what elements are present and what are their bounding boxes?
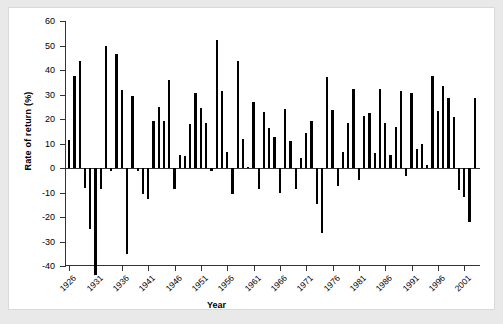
bar — [121, 90, 123, 168]
bar — [374, 153, 376, 168]
bar — [105, 46, 107, 169]
x-tick: 1956 — [227, 265, 228, 271]
x-tick: 1951 — [201, 265, 202, 271]
x-tick-label: 1966 — [259, 273, 289, 303]
x-tick-label: 1956 — [207, 273, 237, 303]
bar — [137, 168, 139, 171]
bar — [242, 139, 244, 168]
bar — [152, 121, 154, 168]
bar — [210, 168, 212, 171]
x-tick-label: 1936 — [101, 273, 131, 303]
bar — [142, 168, 144, 194]
bar — [416, 149, 418, 168]
bar — [263, 112, 265, 168]
bar — [179, 155, 181, 168]
bar — [273, 137, 275, 168]
bar — [247, 167, 249, 168]
y-tick-label: 0 — [50, 163, 55, 173]
y-tick-label: -10 — [42, 188, 55, 198]
x-tick-label: 2001 — [444, 273, 474, 303]
bar — [284, 109, 286, 168]
bar — [216, 40, 218, 168]
x-tick: 1981 — [359, 265, 360, 271]
bar — [237, 61, 239, 168]
bar — [126, 168, 128, 254]
x-tick: 1936 — [122, 265, 123, 271]
y-tick: -20 — [60, 217, 66, 218]
x-tick: 1966 — [280, 265, 281, 271]
bar — [268, 128, 270, 168]
y-tick: 10 — [60, 144, 66, 145]
bar — [405, 168, 407, 176]
y-tick: 40 — [60, 70, 66, 71]
bar — [426, 165, 428, 168]
bar — [442, 86, 444, 168]
bar — [458, 168, 460, 190]
bar — [447, 98, 449, 168]
bar — [395, 127, 397, 168]
bar — [305, 133, 307, 168]
x-tick-label: 1941 — [128, 273, 158, 303]
bar — [205, 123, 207, 168]
y-tick-label: 60 — [45, 16, 55, 26]
y-tick-label: 20 — [45, 114, 55, 124]
bar — [173, 168, 175, 189]
bar — [431, 76, 433, 168]
bar — [252, 102, 254, 168]
y-tick: 30 — [60, 95, 66, 96]
bar — [279, 168, 281, 193]
x-tick: 2001 — [464, 265, 465, 271]
y-tick: -40 — [60, 266, 66, 267]
bar — [326, 77, 328, 168]
bar — [352, 89, 354, 168]
x-tick: 1976 — [333, 265, 334, 271]
bar — [79, 61, 81, 168]
x-axis-line — [65, 265, 480, 266]
bar — [189, 124, 191, 168]
y-tick: 20 — [60, 119, 66, 120]
bar — [437, 111, 439, 168]
x-axis-title: Year — [9, 300, 424, 310]
plot-area: -40-30-20-100102030405060 19261931193619… — [65, 21, 480, 266]
bar — [184, 156, 186, 168]
x-tick-label: 1946 — [154, 273, 184, 303]
x-tick-label: 1951 — [180, 273, 210, 303]
x-tick-label: 1961 — [233, 273, 263, 303]
bar — [463, 168, 465, 197]
chart-figure: Rate of return (%) -40-30-20-10010203040… — [8, 7, 495, 310]
x-tick: 1986 — [385, 265, 386, 271]
bar — [221, 91, 223, 168]
bar — [200, 108, 202, 168]
bar — [384, 123, 386, 168]
bar — [331, 110, 333, 168]
y-tick-label: 30 — [45, 90, 55, 100]
x-tick: 1946 — [175, 265, 176, 271]
bar — [147, 168, 149, 199]
bar — [337, 168, 339, 186]
bar — [100, 168, 102, 189]
bar — [94, 168, 96, 275]
bar — [131, 96, 133, 168]
x-tick-label: 1986 — [365, 273, 395, 303]
x-tick-label: 1981 — [338, 273, 368, 303]
y-tick-label: 10 — [45, 139, 55, 149]
bar — [342, 152, 344, 168]
bar — [194, 93, 196, 168]
bar — [300, 158, 302, 168]
x-tick-label: 1926 — [49, 273, 79, 303]
bar — [389, 155, 391, 168]
x-tick-label: 1991 — [391, 273, 421, 303]
bar — [110, 168, 112, 171]
bar — [158, 107, 160, 168]
x-tick: 1971 — [306, 265, 307, 271]
x-tick-label: 1996 — [417, 273, 447, 303]
bar — [226, 152, 228, 168]
y-tick: 0 — [60, 168, 66, 169]
bar — [453, 117, 455, 168]
bar — [310, 121, 312, 168]
bar — [168, 80, 170, 168]
bar — [410, 93, 412, 168]
y-tick: 60 — [60, 21, 66, 22]
y-tick-label: -30 — [42, 237, 55, 247]
bar — [316, 168, 318, 204]
